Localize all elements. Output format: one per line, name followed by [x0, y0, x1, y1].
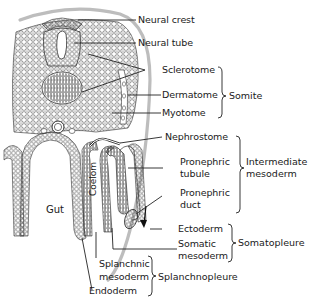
neural-canal	[57, 31, 67, 59]
label-pronephric-tubule-2: tubule	[180, 168, 210, 179]
brace-somatopleure	[228, 224, 236, 262]
label-neural-tube: Neural tube	[138, 37, 193, 48]
label-pronephric-duct-1: Pronephric	[180, 187, 230, 198]
leader-nephrostome	[120, 137, 162, 143]
direction-arrow-head	[140, 220, 147, 228]
group-label-somatopleure: Somatopleure	[238, 237, 305, 248]
label-nephrostome: Nephrostome	[165, 131, 228, 142]
label-endoderm: Endoderm	[89, 285, 137, 296]
coelom-label: Coelom	[88, 162, 98, 196]
brace-somite	[218, 67, 226, 118]
label-pronephric-duct-2: duct	[180, 199, 201, 210]
label-splanchnic-mesoderm-1: Splanchnic	[99, 258, 150, 269]
group-label-intermediate-mesoderm-1: Intermediate	[246, 156, 307, 167]
gut-label: Gut	[46, 204, 64, 215]
group-label-splanchnopleure: Splanchnopleure	[158, 271, 238, 282]
label-pronephric-tubule-1: Pronephric	[180, 156, 230, 167]
gut-endoderm	[20, 132, 86, 240]
label-ectoderm: Ectoderm	[178, 223, 223, 234]
label-somatic-mesoderm-1: Somatic	[178, 238, 216, 249]
leader-somatic-mesoderm	[112, 228, 177, 249]
label-neural-crest: Neural crest	[138, 14, 195, 25]
label-myotome: Myotome	[162, 107, 206, 118]
label-sclerotome: Sclerotome	[162, 64, 215, 75]
label-somatic-mesoderm-2: mesoderm	[178, 250, 228, 261]
brace-intermediate-mesoderm	[236, 136, 244, 213]
somatic-mesoderm-tissue	[100, 146, 114, 232]
label-splanchnic-mesoderm-2: mesoderm	[99, 271, 149, 282]
group-label-somite: Somite	[229, 90, 262, 101]
leader-endoderm	[82, 238, 92, 290]
label-dermatome: Dermatome	[162, 89, 218, 100]
group-label-intermediate-mesoderm-2: mesoderm	[246, 168, 297, 179]
